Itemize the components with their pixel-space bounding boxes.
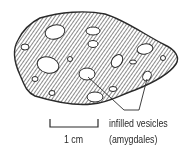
annotation-infilled-vesicles: infilled vesicles — [109, 118, 168, 130]
scale-bar-label: 1 cm — [64, 134, 83, 146]
scale-bar — [50, 119, 98, 127]
rock-diagram — [0, 0, 189, 157]
annotation-amygdales: (amygdales) — [109, 134, 157, 146]
rock-specimen — [14, 12, 177, 105]
